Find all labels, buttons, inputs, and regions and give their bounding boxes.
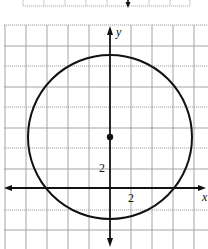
center-point bbox=[107, 134, 113, 140]
y-axis-down-arrow-icon bbox=[107, 238, 113, 247]
graph-canvas bbox=[0, 0, 208, 249]
y-axis-up-arrow-icon bbox=[107, 26, 113, 35]
y-axis-label: y bbox=[116, 26, 121, 38]
top-arrow-icon bbox=[126, 0, 131, 8]
top-grid-fragment bbox=[23, 0, 190, 6]
x-axis-label: x bbox=[202, 191, 207, 203]
main-grid bbox=[4, 25, 208, 249]
x-tick-label-2: 2 bbox=[128, 192, 134, 204]
y-tick-label-2: 2 bbox=[99, 162, 105, 174]
